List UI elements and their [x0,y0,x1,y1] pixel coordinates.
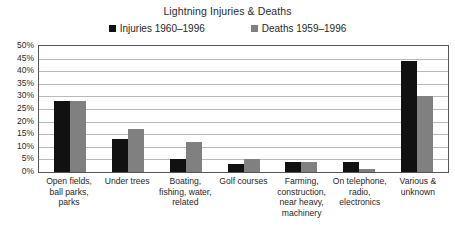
bar-series0[interactable] [228,164,244,172]
lightning-bar-chart: Lightning Injuries & Deaths Injuries 196… [0,0,455,229]
bar-series1[interactable] [186,142,202,172]
x-category-label-line: radio, [332,187,388,198]
bar-series1[interactable] [301,162,317,172]
x-category-label: Golf courses [214,176,272,228]
x-category-label-line: On telephone, [332,176,388,187]
bar-series0[interactable] [54,101,70,172]
bar-series0[interactable] [343,162,359,172]
bar-groups [39,46,448,172]
y-tick-label: 5% [0,154,34,163]
x-category-label: Various &unknown [389,176,447,228]
bar-group [215,46,273,172]
bar-series1[interactable] [359,169,375,172]
legend-item-1[interactable]: Deaths 1959–1996 [251,23,347,34]
bar-series0[interactable] [285,162,301,172]
x-axis-category-labels: Open fields,ball parks,parksUnder treesB… [38,176,449,228]
plot-area [38,45,449,173]
x-category-label-line: Boating, [157,176,213,187]
y-axis-tick-labels: 50%45%40%35%30%25%20%15%10%5%0% [0,40,34,178]
y-tick-label: 0% [0,167,34,176]
x-category-label-line: unknown [390,187,446,198]
y-tick-label: 25% [0,104,34,113]
x-category-label-line: construction, [274,187,330,198]
bar-series0[interactable] [401,61,417,172]
x-category-label-line: electronics [332,197,388,208]
y-tick-label: 35% [0,78,34,87]
y-tick-label: 15% [0,129,34,138]
x-category-label-line: Open fields, [41,176,97,187]
bar-series0[interactable] [170,159,186,172]
legend-swatch-icon [109,25,116,32]
bar-series1[interactable] [128,129,144,172]
x-category-label-line: machinery [274,208,330,219]
x-category-label-line: Under trees [99,176,155,187]
chart-title: Lightning Injuries & Deaths [0,5,455,17]
y-tick-label: 40% [0,66,34,75]
x-category-label-line: parks [41,197,97,208]
x-category-label-line: Golf courses [215,176,271,187]
bar-series0[interactable] [112,139,128,172]
bar-group [330,46,388,172]
chart-legend: Injuries 1960–1996Deaths 1959–1996 [0,23,455,34]
y-tick-label: 20% [0,116,34,125]
y-tick-label: 50% [0,41,34,50]
x-category-label-line: Various & [390,176,446,187]
y-tick-label: 10% [0,141,34,150]
x-category-label-line: near heavy, [274,197,330,208]
y-tick-label: 45% [0,53,34,62]
x-category-label-line: ball parks, [41,187,97,198]
x-category-label-line: Farming, [274,176,330,187]
bar-group [99,46,157,172]
bar-series1[interactable] [244,159,260,172]
x-category-label: Farming,construction,near heavy,machiner… [273,176,331,228]
bar-group [388,46,446,172]
legend-label: Deaths 1959–1996 [262,23,347,34]
legend-swatch-icon [251,25,258,32]
bar-group [272,46,330,172]
x-category-label-line: fishing, water, [157,187,213,198]
legend-label: Injuries 1960–1996 [120,23,205,34]
legend-item-0[interactable]: Injuries 1960–1996 [109,23,205,34]
x-category-label: Open fields,ball parks,parks [40,176,98,228]
bar-series1[interactable] [417,96,433,172]
bar-group [41,46,99,172]
x-category-label: Boating,fishing, water,related [156,176,214,228]
x-category-label-line: related [157,197,213,208]
y-tick-label: 30% [0,91,34,100]
bar-series1[interactable] [70,101,86,172]
x-category-label: On telephone,radio,electronics [331,176,389,228]
bar-group [157,46,215,172]
x-category-label: Under trees [98,176,156,228]
